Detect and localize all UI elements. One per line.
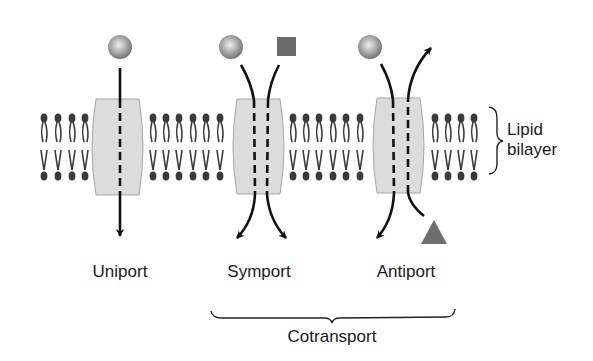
antiport-label: Antiport	[377, 262, 436, 282]
antiport-triangle-substrate	[421, 220, 447, 244]
lipid-bilayer-left	[41, 113, 89, 180]
symport-square-substrate	[277, 37, 296, 56]
transport-diagram: Uniport Symport Antiport Lipid bilayer C…	[0, 0, 593, 361]
lipid-bilayer-label-line1: Lipid	[507, 120, 557, 140]
symport-sphere-substrate	[219, 35, 243, 59]
antiport-sphere-substrate	[358, 35, 382, 59]
lipid-bilayer-mid2	[290, 113, 364, 180]
uniport-protein	[92, 99, 143, 195]
uniport-sphere-substrate	[108, 35, 132, 59]
lipid-bilayer-brace	[489, 107, 503, 174]
lipid-bilayer-label-line2: bilayer	[507, 140, 557, 160]
lipid-bilayer-mid1	[150, 113, 224, 180]
symport-label: Symport	[227, 262, 290, 282]
uniport-label: Uniport	[93, 262, 148, 282]
cotransport-label: Cotransport	[288, 327, 377, 347]
lipid-bilayer-label: Lipid bilayer	[507, 120, 557, 160]
lipid-bilayer-right	[432, 113, 478, 180]
symport-protein	[233, 99, 284, 194]
cotransport-brace	[211, 309, 455, 323]
antiport-protein	[373, 98, 424, 193]
